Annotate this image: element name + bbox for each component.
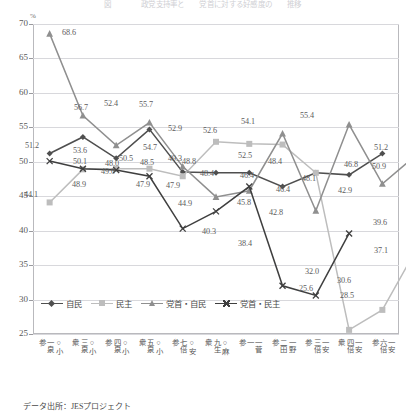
data-point-label: 48.8 <box>182 158 196 166</box>
x-tick-label-column: ○安 <box>187 338 195 355</box>
x-tick-label: ○麻九生衆 <box>203 338 228 355</box>
x-tick-label-column: 一安 <box>320 338 328 353</box>
legend-item-自民[interactable]: 自民 <box>41 297 82 309</box>
x-tick-label-column: 六倍 <box>378 338 386 353</box>
source-note: データ出所：JESプロジェクト <box>23 400 131 411</box>
data-point-label: 52.9 <box>168 125 182 133</box>
x-tick-label: 一安四倍衆 <box>336 338 361 353</box>
data-point-label: 46.4 <box>276 186 290 194</box>
legend-label: 民主 <box>115 297 132 309</box>
legend-marker-icon <box>215 299 237 308</box>
x-tick-label-column: 参 <box>170 338 178 355</box>
data-point-label: 46.8 <box>344 161 358 169</box>
x-tick-label-column: 三泉 <box>79 338 87 355</box>
data-point-label: 48.4 <box>268 158 282 166</box>
x-tick-label: 一安三倍参 <box>303 338 328 353</box>
x-tick-label-column: 参 <box>270 338 278 353</box>
x-tick-label-column: 一安 <box>353 338 361 353</box>
x-tick-label-column: 一 <box>245 338 253 353</box>
data-point-label: 48.1 <box>302 175 316 183</box>
data-point-label: 47.9 <box>136 181 150 189</box>
data-point-label: 28.5 <box>340 292 354 300</box>
data-point-label: 42.9 <box>338 187 352 195</box>
data-point-label: 37.1 <box>374 247 388 255</box>
x-tick-label-column: 一野 <box>287 338 295 353</box>
data-point-label: 40.3 <box>202 228 216 236</box>
legend-marker-icon <box>141 299 163 308</box>
x-tick-label-column: 三倍 <box>312 338 320 353</box>
data-point-label: 54.7 <box>143 144 157 152</box>
legend-marker-icon <box>91 299 113 308</box>
legend-label: 党首・自民 <box>165 297 206 309</box>
data-point-label: 54.1 <box>241 118 255 126</box>
chart-container: 図 政党支持率と 党首に対する好感度の 推移 % 253035404550556… <box>0 0 406 420</box>
legend-marker-icon <box>41 299 63 308</box>
legend-label: 自民 <box>65 297 82 309</box>
x-tick-label-column: 参 <box>37 338 45 355</box>
legend: 自民民主党首・自民党首・民主 <box>41 297 280 309</box>
x-tick-label: 一野二田参 <box>270 338 295 353</box>
x-tick-label-column: 一菅 <box>253 338 261 353</box>
x-tick-label: 一安六倍参 <box>370 338 395 353</box>
data-point-label: 44.9 <box>178 200 192 208</box>
x-tick-label-column: 衆 <box>203 338 211 355</box>
x-tick-label-column: 参 <box>104 338 112 355</box>
x-tick-label-column: 四泉 <box>112 338 120 355</box>
x-tick-label-column: 九生 <box>212 338 220 355</box>
x-tick-label-column: 一安 <box>387 338 395 353</box>
x-tick-label-column: 衆 <box>137 338 145 355</box>
data-point-label: 55.4 <box>300 112 314 120</box>
x-tick-label-column: ○小 <box>120 338 128 355</box>
x-tick-label-column: ○小 <box>54 338 62 355</box>
x-tick-label-column: 七倍 <box>179 338 187 355</box>
x-tick-label-column: ○小 <box>154 338 162 355</box>
data-point-label: 52.5 <box>238 152 252 160</box>
x-tick-label-column: 衆 <box>70 338 78 355</box>
legend-item-党首・民主[interactable]: 党首・民主 <box>215 297 280 309</box>
data-point-label: 52.6 <box>203 127 217 135</box>
data-point-label: 38.4 <box>238 240 252 248</box>
legend-label: 党首・民主 <box>239 297 280 309</box>
data-point-label: 50.1 <box>73 158 87 166</box>
x-tick-label-column: 五泉 <box>145 338 153 355</box>
data-point-label: 32.0 <box>305 268 319 276</box>
x-tick-label-column: 参 <box>303 338 311 353</box>
data-point-label: 51.2 <box>374 144 388 152</box>
data-point-label: 48.0 <box>105 160 119 168</box>
x-tick-label-column: 二田 <box>278 338 286 353</box>
x-tick-label-column: 衆 <box>336 338 344 353</box>
data-point-label: 53.6 <box>73 147 87 155</box>
data-point-label: 50.9 <box>372 163 386 171</box>
data-point-label: 45.8 <box>237 199 251 207</box>
legend-item-党首・自民[interactable]: 党首・自民 <box>141 297 206 309</box>
data-point-label: 48.5 <box>140 159 154 167</box>
x-tick-label: ○小四泉参 <box>104 338 129 355</box>
x-tick-label-column: ○麻 <box>220 338 228 355</box>
x-tick-label: ○安七倍参 <box>170 338 195 355</box>
data-point-label: 55.7 <box>139 101 153 109</box>
data-point-label: 47.9 <box>166 182 180 190</box>
series-党首・自民 <box>46 30 406 214</box>
data-point-label: 25.6 <box>299 285 313 293</box>
data-point-label: 39.6 <box>373 219 387 227</box>
data-point-label: 49.0 <box>101 168 115 176</box>
data-point-label: 51.2 <box>25 142 39 150</box>
data-point-label: 46.4 <box>240 172 254 180</box>
x-tick-label-column: 参 <box>237 338 245 353</box>
data-point-label: 44.1 <box>24 191 38 199</box>
data-point-label: 48.9 <box>72 181 86 189</box>
x-axis-labels: ○小一泉参○小三泉衆○小四泉参○小五泉衆○安七倍参○麻九生衆一菅一参一野二田参一… <box>33 338 399 394</box>
data-point-label: 30.6 <box>337 277 351 285</box>
x-tick-label: 一菅一参 <box>237 338 262 353</box>
x-tick-label-column: ○小 <box>87 338 95 355</box>
x-tick-label-column: 四倍 <box>345 338 353 353</box>
x-tick-label: ○小五泉衆 <box>137 338 162 355</box>
x-tick-label: ○小一泉参 <box>37 338 62 355</box>
legend-item-民主[interactable]: 民主 <box>91 297 132 309</box>
data-point-label: 49.3 <box>168 155 182 163</box>
x-tick-label: ○小三泉衆 <box>70 338 95 355</box>
data-point-label: 42.8 <box>269 209 283 217</box>
data-point-label: 52.4 <box>104 100 118 108</box>
x-tick-label-column: 一泉 <box>45 338 53 355</box>
data-point-label: 68.6 <box>62 29 76 37</box>
